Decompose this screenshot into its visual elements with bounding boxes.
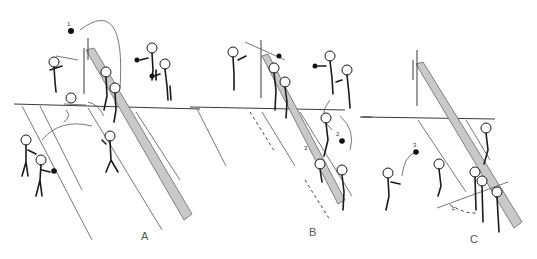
panel-label: C bbox=[470, 233, 478, 245]
court-line bbox=[40, 106, 82, 190]
annotation: F bbox=[452, 206, 456, 212]
panel-b: 2 3 B bbox=[190, 40, 372, 238]
player bbox=[102, 131, 118, 172]
court-line bbox=[190, 107, 345, 110]
ball-icon bbox=[277, 54, 282, 59]
ball-icon bbox=[339, 138, 345, 144]
net-band bbox=[416, 62, 522, 228]
player bbox=[21, 135, 36, 176]
court-line bbox=[22, 106, 92, 240]
motion-arrow bbox=[56, 56, 78, 60]
ball-trajectory bbox=[402, 152, 416, 176]
panel-c: 3 F C bbox=[362, 50, 522, 245]
numeral: 2 bbox=[336, 131, 340, 137]
ball-trajectory bbox=[42, 124, 92, 140]
player bbox=[383, 168, 400, 210]
player bbox=[36, 155, 57, 196]
ball-icon bbox=[413, 149, 419, 155]
court-line bbox=[362, 117, 495, 119]
player bbox=[492, 187, 502, 232]
player bbox=[470, 167, 480, 210]
player bbox=[477, 176, 487, 222]
ball-trajectory bbox=[80, 20, 121, 88]
numeral: 3 bbox=[413, 142, 417, 148]
numeral: 1 bbox=[67, 21, 71, 27]
dashed-line bbox=[305, 180, 330, 220]
panel-label: B bbox=[309, 226, 316, 238]
dashed-line bbox=[250, 112, 275, 152]
player bbox=[313, 51, 336, 94]
player bbox=[228, 47, 246, 90]
court-line bbox=[88, 108, 162, 230]
ball-trajectory bbox=[340, 116, 352, 150]
player-diving bbox=[64, 93, 86, 122]
player bbox=[49, 57, 62, 92]
ball-icon bbox=[68, 28, 74, 34]
diagram-svg: 1 A 2 3 B bbox=[0, 0, 537, 259]
numeral: 3 bbox=[304, 145, 308, 151]
player bbox=[336, 65, 352, 108]
court-line bbox=[14, 104, 200, 109]
player bbox=[321, 113, 331, 156]
volleyball-diagram: 1 A 2 3 B bbox=[0, 0, 537, 259]
court-line bbox=[197, 109, 226, 166]
panel-a: 1 A bbox=[14, 20, 200, 242]
player bbox=[434, 159, 444, 196]
panel-label: A bbox=[141, 230, 149, 242]
motion-arrow bbox=[88, 102, 104, 116]
